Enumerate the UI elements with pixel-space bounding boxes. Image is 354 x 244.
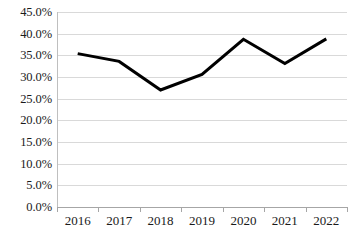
y-axis-tick-label: 10.0% (0, 157, 52, 170)
x-axis-tick-label: 2017 (106, 214, 132, 227)
x-axis-tick (264, 207, 265, 212)
y-axis-tick-label: 25.0% (0, 92, 52, 105)
y-axis-tick-label: 20.0% (0, 114, 52, 127)
x-axis-tick-label: 2018 (148, 214, 174, 227)
series-line (57, 12, 347, 207)
x-axis-tick-label: 2016 (65, 214, 91, 227)
x-axis-line (57, 207, 347, 208)
x-axis-tick (347, 207, 348, 212)
x-axis-tick (140, 207, 141, 212)
y-axis-tick-label: 0.0% (0, 201, 52, 214)
x-axis-tick (306, 207, 307, 212)
x-axis-tick-label: 2020 (230, 214, 256, 227)
x-axis-tick (98, 207, 99, 212)
plot-area (57, 12, 347, 207)
y-axis-tick-label: 15.0% (0, 136, 52, 149)
x-axis-tick-label: 2019 (189, 214, 215, 227)
y-axis-tick-label: 5.0% (0, 179, 52, 192)
x-axis-tick (57, 207, 58, 212)
x-axis-tick (223, 207, 224, 212)
y-axis-tick-label: 30.0% (0, 71, 52, 84)
y-axis-tick-label: 45.0% (0, 6, 52, 19)
y-axis-tick-label: 35.0% (0, 49, 52, 62)
y-axis-tick-labels: 0.0%5.0%10.0%15.0%20.0%25.0%30.0%35.0%40… (0, 0, 52, 244)
x-axis-tick (181, 207, 182, 212)
line-chart: 0.0%5.0%10.0%15.0%20.0%25.0%30.0%35.0%40… (0, 0, 354, 244)
x-axis-tick-label: 2022 (313, 214, 339, 227)
x-axis-tick-label: 2021 (272, 214, 298, 227)
y-axis-tick-label: 40.0% (0, 27, 52, 40)
x-axis-tick-labels: 2016201720182019202020212022 (57, 214, 347, 238)
